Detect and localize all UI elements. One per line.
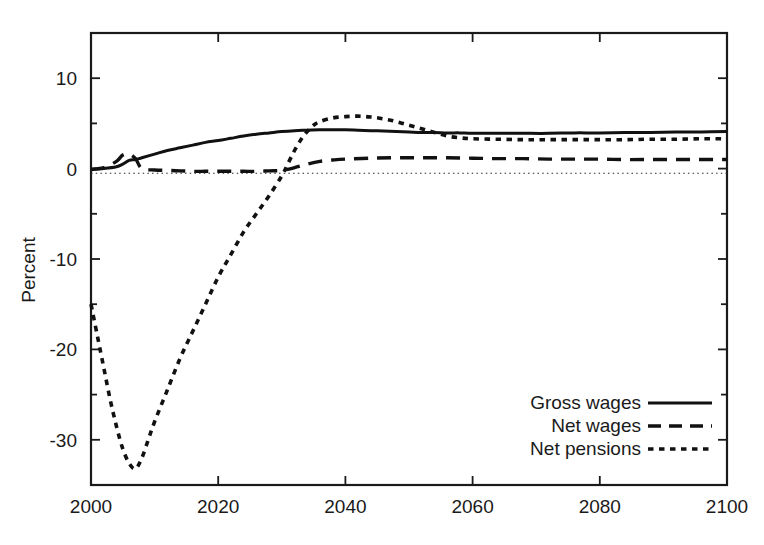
legend-label-net-wages: Net wages: [551, 415, 641, 436]
y-tick-label: 10: [56, 68, 77, 89]
chart-legend: Gross wagesNet wagesNet pensions: [530, 392, 712, 459]
x-tick-label: 2100: [706, 496, 748, 517]
x-tick-label: 2060: [451, 496, 493, 517]
x-axis-tick-labels: 200020202040206020802100: [70, 496, 748, 517]
series-line-gross-wages: [91, 130, 727, 170]
y-tick-label: -20: [50, 339, 77, 360]
x-tick-label: 2000: [70, 496, 112, 517]
y-axis-tick-labels: 100-10-20-30: [50, 68, 77, 451]
chart-page: 200020202040206020802100 100-10-20-30 Pe…: [0, 0, 764, 545]
y-axis-title: Percent: [18, 237, 39, 303]
x-tick-label: 2040: [324, 496, 366, 517]
x-tick-label: 2080: [579, 496, 621, 517]
legend-label-gross-wages: Gross wages: [530, 392, 641, 413]
y-tick-label: -10: [50, 249, 77, 270]
series-line-net-wages: [91, 154, 727, 172]
y-tick-label: -30: [50, 430, 77, 451]
line-chart: 200020202040206020802100 100-10-20-30 Pe…: [0, 0, 764, 545]
x-tick-label: 2020: [197, 496, 239, 517]
legend-label-net-pensions: Net pensions: [530, 438, 641, 459]
y-tick-label: 0: [66, 159, 77, 180]
